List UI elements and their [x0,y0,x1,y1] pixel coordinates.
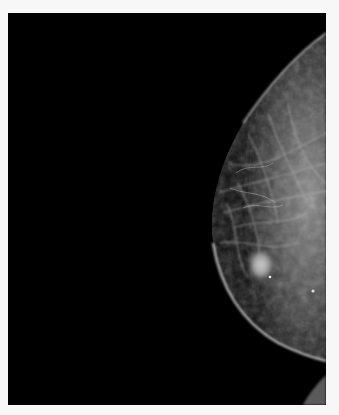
breast-tissue-illustration [8,13,326,405]
mammogram-image [8,13,326,405]
